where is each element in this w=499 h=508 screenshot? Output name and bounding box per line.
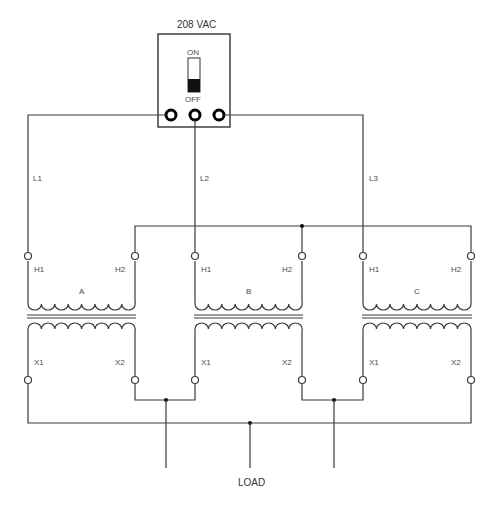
transformer-name: A bbox=[79, 287, 85, 296]
terminal-h2 bbox=[299, 253, 306, 260]
line-label-l3: L3 bbox=[369, 174, 378, 183]
label-h1: H1 bbox=[34, 265, 45, 274]
terminal-x2 bbox=[132, 377, 139, 384]
terminal-h1 bbox=[192, 253, 199, 260]
terminal-x1 bbox=[360, 377, 367, 384]
disconnect-switch: 208 VAC ON OFF bbox=[158, 19, 230, 127]
label-h2: H2 bbox=[451, 265, 462, 274]
terminal-h1 bbox=[25, 253, 32, 260]
terminal-x1 bbox=[192, 377, 199, 384]
secondary-coil bbox=[363, 323, 471, 333]
label-x2: X2 bbox=[451, 358, 461, 367]
line-label-l2: L2 bbox=[200, 174, 209, 183]
terminal-x1 bbox=[25, 377, 32, 384]
transformer-c: H1 H2 C X1 X2 bbox=[360, 253, 475, 384]
terminal-l3 bbox=[214, 110, 224, 120]
label-x1: X1 bbox=[369, 358, 379, 367]
transformer-b: H1 H2 B X1 X2 bbox=[192, 253, 306, 384]
transformer-a: H1 H2 A X1 X2 bbox=[25, 253, 139, 384]
primary-coil bbox=[363, 300, 471, 310]
line-label-l1: L1 bbox=[33, 174, 42, 183]
secondary-tie-bc bbox=[302, 384, 363, 400]
switch-toggle-handle[interactable] bbox=[188, 79, 200, 92]
secondary-coil bbox=[195, 323, 302, 333]
switch-off-label: OFF bbox=[185, 95, 201, 104]
label-h1: H1 bbox=[201, 265, 212, 274]
label-x1: X1 bbox=[34, 358, 44, 367]
label-x2: X2 bbox=[115, 358, 125, 367]
terminal-l1 bbox=[166, 110, 176, 120]
secondary-tie-ab bbox=[135, 384, 195, 400]
label-h1: H1 bbox=[369, 265, 380, 274]
load-label: LOAD bbox=[238, 477, 265, 488]
switch-on-label: ON bbox=[187, 48, 199, 57]
junction-dot bbox=[300, 224, 304, 228]
wire-l1 bbox=[28, 115, 166, 256]
wire-l3 bbox=[224, 115, 363, 256]
transformer-name: B bbox=[246, 287, 251, 296]
transformer-name: C bbox=[414, 287, 420, 296]
primary-coil bbox=[28, 300, 135, 310]
terminal-x2 bbox=[299, 377, 306, 384]
terminal-h1 bbox=[360, 253, 367, 260]
label-h2: H2 bbox=[115, 265, 126, 274]
label-x1: X1 bbox=[201, 358, 211, 367]
h2-tie-bus bbox=[135, 226, 471, 256]
terminal-l2 bbox=[190, 110, 200, 120]
secondary-tie-ca bbox=[28, 384, 471, 423]
terminal-h2 bbox=[468, 253, 475, 260]
transformer-schematic: 208 VAC ON OFF L1 L2 L3 H1 H2 A X1 X2 bbox=[0, 0, 499, 508]
label-x2: X2 bbox=[282, 358, 292, 367]
terminal-h2 bbox=[132, 253, 139, 260]
supply-voltage-label: 208 VAC bbox=[177, 19, 216, 30]
label-h2: H2 bbox=[282, 265, 293, 274]
secondary-coil bbox=[28, 323, 135, 333]
terminal-x2 bbox=[468, 377, 475, 384]
primary-coil bbox=[195, 300, 302, 310]
